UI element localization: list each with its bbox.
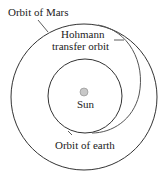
hohmann-diagram: Orbit of Mars Hohmann transfer orbit Sun… [0, 0, 164, 176]
transfer-label-line1: Hohmann [61, 28, 105, 40]
transfer-label-line2: transfer orbit [52, 40, 109, 52]
earth-leader-line [68, 131, 72, 135]
sun-icon [80, 88, 88, 96]
sun-label: Sun [77, 98, 95, 110]
earth-orbit-label: Orbit of earth [55, 139, 115, 151]
mars-leader-line [38, 20, 48, 32]
mars-orbit-label: Orbit of Mars [8, 6, 69, 18]
